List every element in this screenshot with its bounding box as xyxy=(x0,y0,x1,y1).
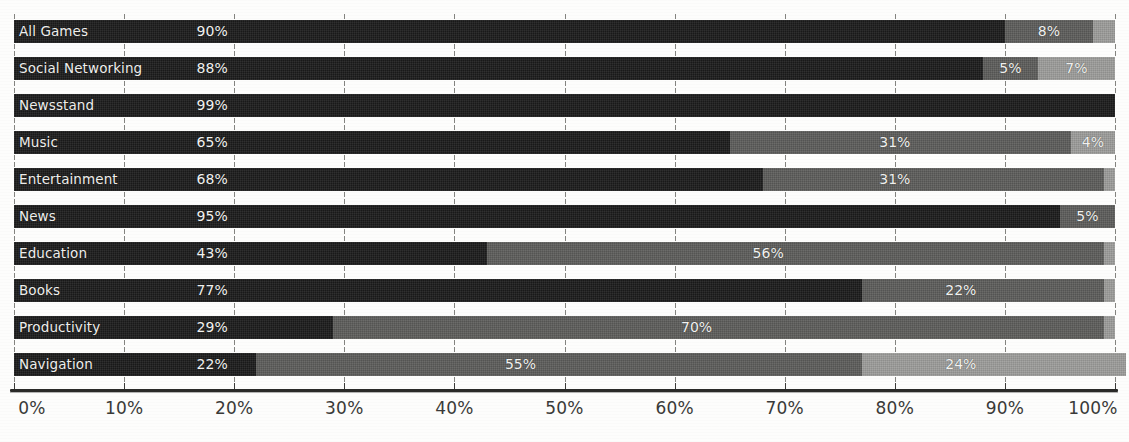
gridline-tick xyxy=(565,125,566,130)
bar-value-label: 68% xyxy=(197,168,228,191)
gridline-tick xyxy=(234,118,235,123)
gridline-tick xyxy=(124,118,125,123)
bar-row[interactable]: Books77%22% xyxy=(14,279,1115,302)
gridline-tick xyxy=(1115,236,1116,241)
bar-segment[interactable] xyxy=(14,94,1104,117)
bar-value-label: 5% xyxy=(999,57,1021,80)
gridline-tick xyxy=(454,88,455,93)
bar-segment[interactable] xyxy=(14,20,1005,43)
bar-segment[interactable] xyxy=(14,279,862,302)
gridline-tick xyxy=(124,377,125,382)
bar-row[interactable]: All Games90%8% xyxy=(14,20,1115,43)
gridline-tick xyxy=(234,199,235,204)
bar-segment[interactable] xyxy=(1104,279,1115,302)
gridline-tick xyxy=(14,88,15,93)
gridline-tick xyxy=(565,88,566,93)
bar-segment[interactable] xyxy=(1093,20,1115,43)
gridline-tick xyxy=(14,310,15,315)
gridline-tick xyxy=(454,347,455,352)
gridline-tick xyxy=(565,162,566,167)
bar-row[interactable]: Entertainment68%31% xyxy=(14,168,1115,191)
gridline-tick xyxy=(344,303,345,308)
gridline-tick xyxy=(1005,81,1006,86)
bar-row[interactable]: News95%5% xyxy=(14,205,1115,228)
gridline-tick xyxy=(565,236,566,241)
segment-texture xyxy=(14,279,862,302)
segment-texture xyxy=(14,57,983,80)
gridline-tick xyxy=(124,199,125,204)
bar-row[interactable]: Newsstand99% xyxy=(14,94,1115,117)
gridline-tick xyxy=(344,51,345,56)
gridline-tick xyxy=(124,155,125,160)
x-axis-line xyxy=(10,389,1118,392)
bar-segment[interactable] xyxy=(1104,94,1115,117)
bar-segment[interactable] xyxy=(1104,168,1115,191)
bar-segment[interactable] xyxy=(333,316,1104,339)
x-axis-tick-label: 80% xyxy=(876,398,914,418)
gridline-tick xyxy=(234,88,235,93)
gridline-tick xyxy=(454,162,455,167)
bar-row[interactable]: Music65%31%4% xyxy=(14,131,1115,154)
gridline-tick xyxy=(565,81,566,86)
bar-row[interactable]: Navigation22%55%24% xyxy=(14,353,1115,376)
bar-segment[interactable] xyxy=(487,242,1104,265)
bar-segment[interactable] xyxy=(14,57,983,80)
gridline-tick xyxy=(675,236,676,241)
gridline-tick xyxy=(1005,303,1006,308)
gridline-tick xyxy=(785,266,786,271)
gridline-tick xyxy=(344,88,345,93)
bar-value-label: 8% xyxy=(1038,20,1060,43)
gridline-tick xyxy=(344,192,345,197)
x-axis-tick xyxy=(454,383,455,389)
gridline-tick xyxy=(14,81,15,86)
bar-segment[interactable] xyxy=(862,353,1126,376)
gridline-tick xyxy=(234,303,235,308)
bar-segment[interactable] xyxy=(763,168,1104,191)
gridline-tick xyxy=(14,162,15,167)
bar-value-label: 4% xyxy=(1082,131,1104,154)
gridline-tick xyxy=(234,125,235,130)
gridline-tick xyxy=(565,347,566,352)
gridline-tick xyxy=(124,81,125,86)
gridline-tick xyxy=(234,266,235,271)
gridline-tick xyxy=(14,44,15,49)
gridline-tick xyxy=(675,229,676,234)
gridline-tick xyxy=(675,347,676,352)
gridline-tick xyxy=(14,199,15,204)
gridline-tick xyxy=(895,347,896,352)
bar-row[interactable]: Social Networking88%5%7% xyxy=(14,57,1115,80)
gridline-tick xyxy=(454,155,455,160)
bar-row[interactable]: Productivity29%70% xyxy=(14,316,1115,339)
gridline-tick xyxy=(1005,199,1006,204)
gridline-tick xyxy=(785,88,786,93)
gridline-tick xyxy=(565,266,566,271)
gridline-tick xyxy=(565,199,566,204)
gridline-tick xyxy=(565,14,566,19)
bar-row[interactable]: Education43%56% xyxy=(14,242,1115,265)
gridline-tick xyxy=(234,155,235,160)
gridline-tick xyxy=(124,229,125,234)
bar-segment[interactable] xyxy=(14,168,763,191)
bar-segment[interactable] xyxy=(1104,242,1115,265)
bar-segment[interactable] xyxy=(256,353,862,376)
bar-value-label: 24% xyxy=(945,353,976,376)
gridline-tick xyxy=(1115,303,1116,308)
gridline-tick xyxy=(1005,162,1006,167)
gridline-tick xyxy=(234,347,235,352)
gridline-tick xyxy=(124,14,125,19)
gridline-tick xyxy=(454,229,455,234)
bar-segment[interactable] xyxy=(14,131,730,154)
gridline-tick xyxy=(14,273,15,278)
bar-value-label: 31% xyxy=(879,168,910,191)
gridline-tick xyxy=(234,340,235,345)
gridline-tick xyxy=(14,14,15,19)
x-axis-tick-label: 0% xyxy=(18,398,45,418)
bar-segment[interactable] xyxy=(14,205,1060,228)
bar-segment[interactable] xyxy=(862,279,1104,302)
bar-segment[interactable] xyxy=(1104,316,1115,339)
bar-value-label: 65% xyxy=(197,131,228,154)
gridline-tick xyxy=(124,125,125,130)
gridline-tick xyxy=(565,340,566,345)
gridline-tick xyxy=(454,14,455,19)
gridline-tick xyxy=(785,125,786,130)
